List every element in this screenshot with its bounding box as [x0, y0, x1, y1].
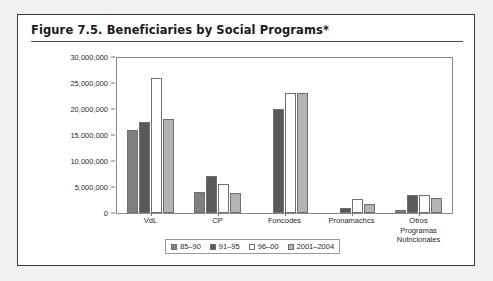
y-axis-tick-label: 25,000,000 — [70, 79, 108, 88]
x-axis-tick-mark — [419, 213, 420, 216]
title-block: Figure 7.5. Beneficiaries by Social Prog… — [31, 23, 463, 42]
bar-2001-2004 — [431, 198, 442, 213]
bar-chart: 30,000,00025,000,00020,000,00015,000,000… — [31, 51, 463, 256]
y-axis-tick-mark — [111, 213, 115, 214]
bar-91-95 — [340, 208, 351, 213]
y-axis: 30,000,00025,000,00020,000,00015,000,000… — [31, 57, 114, 214]
x-axis-tick-mark — [285, 213, 286, 216]
legend-item: 91–95 — [210, 242, 240, 251]
y-axis-tick-mark — [111, 109, 115, 110]
legend-item: 96–00 — [249, 242, 279, 251]
bar-2001-2004 — [230, 193, 241, 213]
x-axis-label: VdL — [144, 216, 157, 226]
legend-item: 85–90 — [171, 242, 201, 251]
legend-swatch-icon — [210, 244, 216, 250]
y-axis-tick-mark — [111, 83, 115, 84]
bar-group — [318, 57, 385, 213]
bar-2001-2004 — [364, 204, 375, 213]
x-axis-label: Foncodes — [268, 216, 301, 226]
legend-label: 85–90 — [180, 242, 201, 251]
page-background: Figure 7.5. Beneficiaries by Social Prog… — [0, 0, 493, 281]
x-axis-tick-mark — [218, 213, 219, 216]
bar-2001-2004 — [297, 93, 308, 213]
chart-legend: 85–9091–9596–002001–2004 — [165, 239, 340, 254]
bar-91-95 — [407, 195, 418, 213]
bar-2001-2004 — [163, 119, 174, 213]
bar-85-90 — [194, 192, 205, 213]
x-axis-label: Otros Programas Nutricionales — [397, 216, 440, 245]
bar-91-95 — [139, 122, 150, 213]
x-axis-tick-mark — [151, 213, 152, 216]
legend-label: 2001–2004 — [297, 242, 335, 251]
figure-frame: Figure 7.5. Beneficiaries by Social Prog… — [17, 14, 475, 266]
bar-group — [184, 57, 251, 213]
bar-91-95 — [206, 176, 217, 213]
y-axis-tick-mark — [111, 57, 115, 58]
x-axis-label: CP — [212, 216, 222, 226]
title-divider — [31, 41, 463, 42]
bar-groups — [117, 57, 452, 213]
page-title: Figure 7.5. Beneficiaries by Social Prog… — [31, 23, 463, 37]
y-axis-tick-mark — [111, 161, 115, 162]
legend-label: 91–95 — [219, 242, 240, 251]
bar-96-00 — [419, 195, 430, 213]
bar-85-90 — [395, 210, 406, 213]
legend-swatch-icon — [171, 244, 177, 250]
y-axis-tick-label: 20,000,000 — [70, 105, 108, 114]
y-axis-tick-label: 5,000,000 — [75, 183, 108, 192]
y-axis-tick-label: 10,000,000 — [70, 157, 108, 166]
y-axis-tick-label: 15,000,000 — [70, 131, 108, 140]
legend-item: 2001–2004 — [288, 242, 335, 251]
bar-group — [385, 57, 452, 213]
legend-swatch-icon — [288, 244, 294, 250]
bar-group — [251, 57, 318, 213]
y-axis-tick-label: 30,000,000 — [70, 53, 108, 62]
bar-96-00 — [352, 199, 363, 213]
y-axis-tick-label: 0 — [104, 209, 108, 218]
x-axis-label: Pronamachcs — [329, 216, 375, 226]
bar-96-00 — [285, 93, 296, 213]
bar-96-00 — [218, 184, 229, 213]
bar-group — [117, 57, 184, 213]
legend-label: 96–00 — [258, 242, 279, 251]
y-axis-tick-mark — [111, 187, 115, 188]
legend-swatch-icon — [249, 244, 255, 250]
bar-91-95 — [273, 109, 284, 213]
y-axis-tick-mark — [111, 135, 115, 136]
x-axis-tick-mark — [352, 213, 353, 216]
bar-85-90 — [127, 130, 138, 213]
bar-96-00 — [151, 78, 162, 213]
